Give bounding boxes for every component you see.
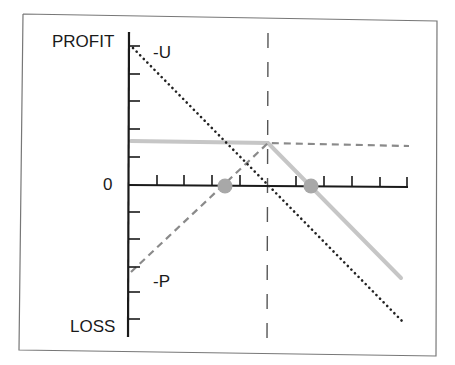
- upper-intercept-label: -U: [153, 44, 171, 61]
- profit-label: PROFIT: [52, 33, 114, 50]
- breakeven-point-left: [218, 179, 233, 194]
- y-axis-ticks: [129, 46, 140, 319]
- loss-label: LOSS: [70, 318, 115, 335]
- payoff-diagram: PROFIT -U 0 -P LOSS: [0, 0, 455, 365]
- zero-label: 0: [103, 176, 112, 193]
- breakeven-point-right: [304, 179, 319, 194]
- lower-intercept-label: -P: [153, 273, 170, 290]
- y-axis: [128, 32, 129, 337]
- strike-price-line: [267, 33, 268, 342]
- dashed-payoff-line: [131, 143, 409, 272]
- gray-payoff-line: [131, 141, 401, 278]
